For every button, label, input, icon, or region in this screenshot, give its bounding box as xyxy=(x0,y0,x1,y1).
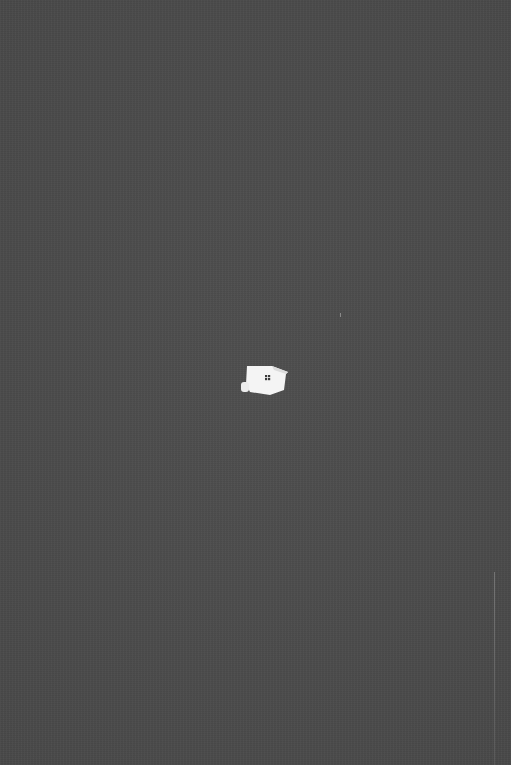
speck xyxy=(340,313,341,317)
textured-background xyxy=(0,0,511,765)
faint-vertical-line xyxy=(494,572,495,765)
house-icon xyxy=(240,364,290,398)
